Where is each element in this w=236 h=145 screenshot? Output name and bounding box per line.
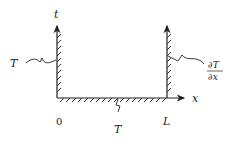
x-axis-label: x [192,92,199,105]
right-wall [167,26,171,98]
right-bc-leader [168,55,204,64]
left-bc-leader [26,58,56,63]
right-bc-denominator: ∂x [208,72,218,82]
bottom-wall [57,98,184,102]
left-bc-label: T [10,57,19,70]
bottom-bc-leader [116,99,120,112]
t-axis-label: t [54,8,59,21]
origin-label: 0 [56,116,62,127]
left-wall [57,26,61,98]
right-bc-numerator: ∂T [208,60,220,70]
length-label: L [162,115,170,128]
boundary-value-diagram: t x 0 L T T ∂T ∂x [0,0,236,145]
bottom-bc-label: T [114,123,123,136]
